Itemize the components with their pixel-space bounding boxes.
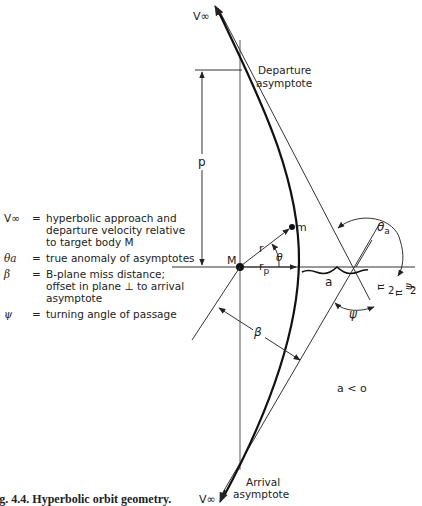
legend: V∞ = hyperbolic approach and departure v… — [4, 212, 196, 324]
departure-asymptote-label: Departure asymptote — [256, 64, 315, 89]
spacecraft-m-point — [289, 224, 295, 230]
legend-symbol: ψ — [4, 308, 32, 320]
a-label: a — [325, 275, 332, 289]
v-inf-top-label: V∞ — [193, 10, 210, 23]
theta-a-label: θa — [377, 220, 390, 236]
legend-equals: = — [32, 252, 46, 264]
legend-row-beta: β = B-plane miss distance; offset in pla… — [4, 268, 196, 304]
theta-label: θ — [276, 251, 283, 264]
fraction-pi-2: π 2 — [375, 284, 394, 296]
figure-caption: ig. 4.4. Hyperbolic orbit geometry. — [0, 492, 171, 506]
legend-text: B-plane miss distance; offset in plane ⊥… — [46, 268, 196, 304]
legend-row-v-inf: V∞ = hyperbolic approach and departure v… — [4, 212, 196, 248]
arrival-asymptote-label: Arrival asymptote — [233, 476, 289, 500]
legend-text: turning angle of passage — [46, 308, 196, 320]
svg-text:π: π — [375, 284, 386, 290]
beta-witness-line — [192, 267, 240, 340]
legend-text: true anomaly of asymptotes — [46, 252, 196, 264]
legend-text: hyperbolic approach and departure veloci… — [46, 212, 196, 248]
hyperbolic-orbit-figure: p β a θa ψ — [0, 0, 422, 506]
M-label: M — [227, 254, 237, 267]
a-brace — [302, 267, 368, 274]
m-label: m — [296, 221, 307, 234]
rp-label: rp — [259, 260, 270, 276]
svg-text:2: 2 — [410, 285, 416, 296]
fraction-psi-2: ψ 2 — [403, 283, 416, 296]
legend-row-theta-a: θa = true anomaly of asymptotes — [4, 252, 196, 264]
legend-equals: = — [32, 308, 46, 320]
legend-symbol: β — [4, 268, 32, 304]
r-label: r — [259, 242, 264, 255]
legend-row-psi: ψ = turning angle of passage — [4, 308, 196, 320]
minus-sign: - — [398, 285, 402, 296]
psi-label: ψ — [349, 307, 358, 321]
legend-symbol: θa — [4, 252, 32, 264]
legend-equals: = — [32, 268, 46, 304]
departure-asymptote-line — [218, 8, 370, 300]
a-less-o-label: a < o — [337, 382, 367, 395]
legend-symbol: V∞ — [4, 212, 32, 248]
beta-label: β — [253, 325, 262, 339]
v-inf-top-arrow — [215, 6, 225, 24]
svg-text:2: 2 — [388, 285, 394, 296]
v-inf-bottom-label: V∞ — [199, 493, 216, 506]
legend-equals: = — [32, 212, 46, 248]
p-label: p — [198, 155, 206, 169]
arrival-asymptote-extension — [356, 240, 372, 267]
